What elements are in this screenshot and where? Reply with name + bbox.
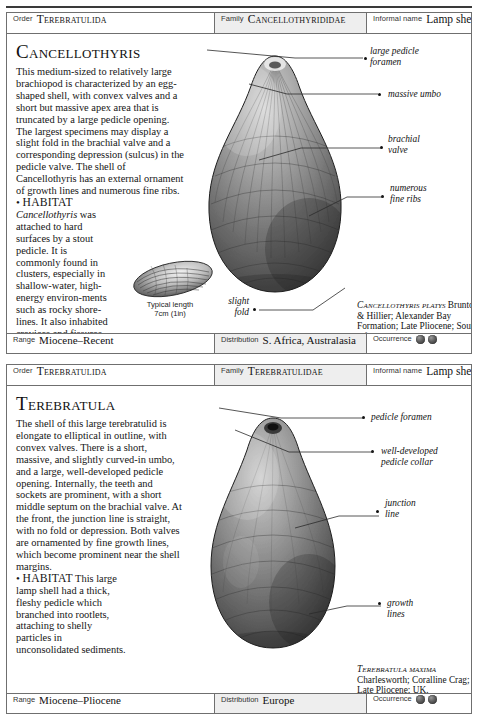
callout-growth-lines: growth lines [387, 598, 413, 619]
genus-heading: Cancellothyris [16, 42, 140, 61]
distribution-value: S. Africa, Australasia [263, 334, 356, 346]
callout-line-1: brachial [388, 134, 420, 145]
occurrence-label: Occurrence [373, 694, 412, 703]
leader-line-junction-line [293, 502, 381, 532]
callout-line-2: line [385, 509, 416, 520]
footer-occurrence-cell: Occurrence [367, 334, 471, 353]
leader-line-pedicle-collar [233, 426, 375, 460]
description-body: This medium-sized to relatively large br… [16, 66, 184, 196]
range-value: Miocene–Pliocene [39, 694, 121, 706]
header-family-cell: Family Cancellothyrididae [215, 13, 367, 33]
callout-line-2: fine ribs [390, 194, 427, 205]
habitat-bullet: • [16, 196, 23, 208]
callout-line-1: growth [387, 598, 413, 609]
habitat-genus: Cancellothyris [16, 209, 77, 220]
description-paragraph: The shell of this large terebratulid is … [16, 418, 184, 573]
habitat-paragraph: • HABITAT This large lamp shell had a th… [16, 573, 126, 656]
habitat-bullet: • [16, 572, 23, 584]
family-value: Terebratulidae [248, 365, 323, 377]
callout-slight-fold: slight fold [193, 296, 249, 317]
callout-line-1: well-developed [381, 446, 438, 457]
specimen-species: platys [422, 300, 445, 310]
distribution-value: Europe [263, 694, 295, 706]
callout-large-pedicle-foramen: large pedicle foramen [370, 46, 419, 67]
habitat-text: was attached to hard surfaces by a stout… [16, 209, 108, 334]
footer-range-cell: Range Miocene–Recent [7, 334, 215, 353]
range-label: Range [13, 695, 35, 704]
callout-line-2: valve [388, 145, 420, 156]
callout-line-2: fold [193, 307, 249, 318]
informal-name-label: Informal name [373, 366, 422, 375]
leader-line-growth-lines [307, 592, 383, 620]
family-label: Family [221, 366, 244, 375]
order-value: Terebratulida [37, 13, 107, 25]
callout-line-1: numerous [390, 183, 427, 194]
entry-body-panel: Terebratula The shell of this large tere… [6, 386, 472, 694]
entry-footer-bar: Range Miocene–Pliocene Distribution Euro… [6, 694, 472, 714]
callout-line-1: massive umbo [388, 89, 441, 100]
occurrence-dot [416, 695, 425, 704]
occurrence-dot [428, 695, 437, 704]
informal-name-value: Lamp shell [426, 13, 471, 25]
occurrence-dot [428, 335, 437, 344]
specimen-genus: Cancellothyris [357, 300, 420, 310]
callout-pedicle-collar: well-developed pedicle collar [381, 446, 438, 467]
specimen-caption: Terebratula maxima Charlesworth; Coralli… [357, 664, 472, 694]
habitat-text: This large lamp shell had a thick, flesh… [16, 573, 126, 655]
header-family-cell: Family Terebratulidae [215, 365, 367, 385]
order-label: Order [13, 14, 33, 23]
leader-line-fine-ribs [307, 180, 385, 222]
family-label: Family [221, 14, 244, 23]
footer-distribution-cell: Distribution Europe [215, 694, 367, 713]
distribution-label: Distribution [221, 695, 259, 704]
occurrence-label: Occurrence [373, 334, 412, 343]
habitat-label: HABITAT [23, 572, 73, 585]
entry-header-bar: Order Terebratulida Family Cancellothyri… [6, 12, 472, 34]
fossil-entry-cancellothyris: Order Terebratulida Family Cancellothyri… [6, 12, 472, 356]
informal-name-value: Lamp shell [426, 365, 471, 377]
specimen-details: Charlesworth; Coralline Crag; Late Plioc… [357, 675, 470, 694]
callout-massive-umbo: massive umbo [388, 89, 441, 100]
callout-junction-line: junction line [385, 498, 416, 519]
distribution-label: Distribution [221, 335, 259, 344]
range-value: Miocene–Recent [39, 334, 114, 346]
specimen-species: maxima [409, 664, 436, 674]
entry-body-panel: Cancellothyris This medium-sized to rela… [6, 34, 472, 334]
callout-brachial-valve: brachial valve [388, 134, 420, 155]
occurrence-dot [416, 335, 425, 344]
habitat-paragraph: • HABITAT Cancellothyris was attached to… [16, 197, 108, 334]
header-order-cell: Order Terebratulida [7, 13, 215, 33]
description-paragraph: This medium-sized to relatively large br… [16, 66, 184, 197]
entry-header-bar: Order Terebratulida Family Terebratulida… [6, 364, 472, 386]
fossil-guide-page: Order Terebratulida Family Cancellothyri… [0, 0, 478, 726]
habitat-label: HABITAT [23, 196, 73, 209]
leader-line-pedicle-foramen [203, 42, 368, 68]
header-order-cell: Order Terebratulida [7, 365, 215, 385]
informal-name-label: Informal name [373, 14, 422, 23]
description-body: The shell of this large terebratulid is … [16, 418, 182, 572]
callout-line-1: large pedicle [370, 46, 419, 57]
occurrence-rating-icon [416, 335, 437, 344]
footer-range-cell: Range Miocene–Pliocene [7, 694, 215, 713]
callout-dot-slight-fold [253, 308, 256, 311]
fossil-entry-terebratula: Order Terebratulida Family Terebratulida… [6, 364, 472, 716]
callout-line-1: junction [385, 498, 416, 509]
leader-line-brachial-valve [257, 130, 383, 166]
order-label: Order [13, 366, 33, 375]
callout-line-1: pedicle foramen [371, 412, 432, 423]
header-informal-name-cell: Informal name Lamp shell [367, 365, 471, 385]
callout-line-1: slight [193, 296, 249, 307]
entry-footer-bar: Range Miocene–Recent Distribution S. Afr… [6, 334, 472, 354]
page-top-rule [6, 6, 472, 8]
leader-line-slight-fold [257, 284, 347, 316]
callout-line-2: pedicle collar [381, 457, 438, 468]
footer-distribution-cell: Distribution S. Africa, Australasia [215, 334, 367, 353]
leader-line-massive-umbo [247, 78, 381, 102]
specimen-genus: Terebratula [357, 664, 407, 674]
family-value: Cancellothyrididae [248, 13, 346, 25]
specimen-caption: Cancellothyris platys Brunton & Hillier;… [357, 300, 472, 334]
header-informal-name-cell: Informal name Lamp shell [367, 13, 471, 33]
footer-occurrence-cell: Occurrence [367, 694, 471, 713]
range-label: Range [13, 335, 35, 344]
callout-line-2: lines [387, 609, 413, 620]
